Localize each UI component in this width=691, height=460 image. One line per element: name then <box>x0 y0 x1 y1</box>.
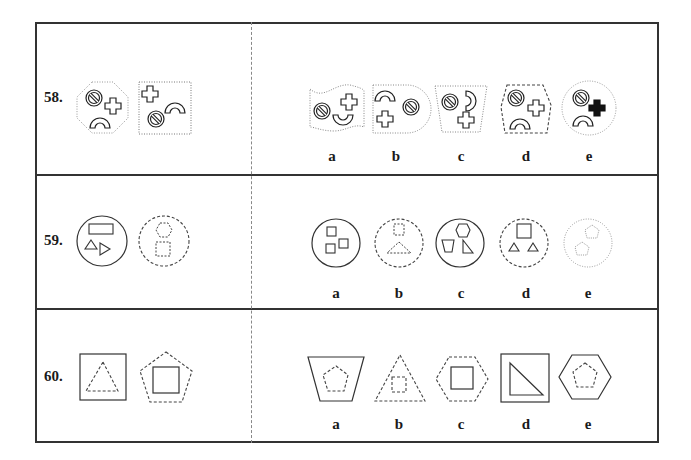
column-divider <box>251 22 252 443</box>
option-label: a <box>326 416 346 433</box>
option-figure <box>435 355 489 403</box>
option-label: e <box>578 285 598 302</box>
option-label: b <box>389 416 409 433</box>
option-figure <box>374 353 426 403</box>
option-figure <box>561 80 617 136</box>
option-label: e <box>579 148 599 165</box>
option-label: b <box>386 148 406 165</box>
option-label: e <box>578 416 598 433</box>
option-label: d <box>516 285 536 302</box>
option-figure <box>435 218 485 268</box>
option-figure <box>311 218 361 268</box>
option-figure <box>306 83 366 135</box>
option-figure <box>499 218 549 268</box>
prompt-figure-pentagon <box>138 350 194 404</box>
option-figure <box>499 83 553 135</box>
option-label: c <box>451 285 471 302</box>
option-label: b <box>389 285 409 302</box>
question-number: 60. <box>44 368 63 385</box>
option-figure <box>434 84 488 134</box>
option-figure <box>371 83 431 135</box>
question-number: 59. <box>44 232 63 249</box>
option-label: d <box>516 148 536 165</box>
option-label: d <box>516 416 536 433</box>
prompt-figure-square <box>138 81 192 135</box>
option-figure <box>307 355 365 403</box>
row-divider <box>35 174 659 176</box>
prompt-figure-circle-solid <box>76 215 128 267</box>
option-figure <box>558 353 612 401</box>
prompt-figure-octagon <box>75 80 130 135</box>
option-figure <box>563 218 613 268</box>
option-label: a <box>322 148 342 165</box>
option-label: c <box>451 148 471 165</box>
option-label: a <box>326 285 346 302</box>
option-figure <box>500 353 550 403</box>
question-number: 58. <box>44 89 63 106</box>
option-label: c <box>451 416 471 433</box>
prompt-figure-circle-dashed <box>138 215 190 267</box>
row-divider <box>35 308 659 310</box>
prompt-figure-square <box>79 353 127 401</box>
option-figure <box>374 218 424 268</box>
